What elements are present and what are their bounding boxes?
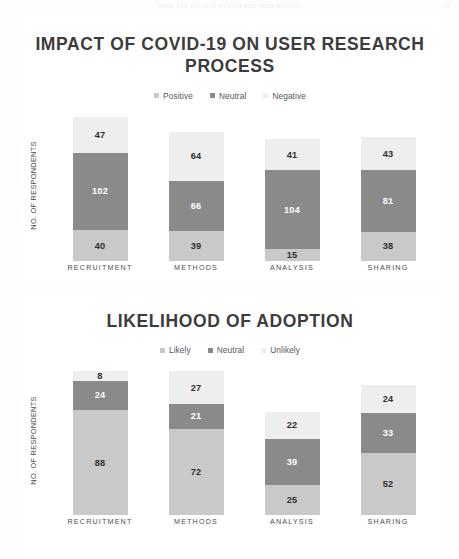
- bar-segment[interactable]: 22: [265, 412, 320, 438]
- bar-segment[interactable]: 66: [169, 181, 224, 231]
- bar-group-adoption: 82488272172223925243352: [52, 365, 436, 515]
- y-axis-label-impact: NO. OF RESPONDENTS: [26, 111, 40, 261]
- legend-label: Neutral: [217, 345, 244, 355]
- bar-segment[interactable]: 15: [265, 249, 320, 260]
- legend-item-neutral: Neutral: [210, 91, 246, 101]
- bar-segment[interactable]: 24: [73, 381, 128, 410]
- bar-segment[interactable]: 38: [361, 232, 416, 261]
- stacked-bar[interactable]: 82488: [73, 371, 128, 515]
- legend-label: Negative: [272, 91, 306, 101]
- x-axis-label: RECRUITMENT: [61, 263, 139, 272]
- bar-segment[interactable]: 102: [73, 153, 128, 231]
- bar-column: 4710240: [61, 111, 139, 261]
- x-axis-labels-impact: RECRUITMENTMETHODSANALYSISSHARING: [52, 263, 436, 272]
- bar-segment[interactable]: 81: [361, 170, 416, 232]
- bar-segment[interactable]: 33: [361, 413, 416, 453]
- legend-label: Unlikely: [270, 345, 300, 355]
- chart-plot-impact: NO. OF RESPONDENTS 471024064663941104154…: [18, 111, 442, 261]
- running-header: IMPACT OF COVID-19 ON USER RESEARCH PROC…: [0, 0, 459, 12]
- legend-swatch-icon: [160, 348, 165, 353]
- legend-item-neutral: Neutral: [208, 345, 244, 355]
- legend-item-unlikely: Unlikely: [261, 345, 300, 355]
- legend-swatch-icon: [210, 93, 215, 98]
- stacked-bar[interactable]: 223925: [265, 412, 320, 515]
- x-axis-labels-adoption: RECRUITMENTMETHODSANALYSISSHARING: [52, 517, 436, 526]
- bar-segment[interactable]: 72: [169, 429, 224, 515]
- stacked-bar[interactable]: 438138: [361, 137, 416, 260]
- x-axis-label: ANALYSIS: [253, 517, 331, 526]
- x-axis-label: METHODS: [157, 517, 235, 526]
- bar-column: 272172: [157, 365, 235, 515]
- legend-swatch-icon: [154, 93, 159, 98]
- x-axis-label: RECRUITMENT: [61, 517, 139, 526]
- bar-segment[interactable]: 21: [169, 404, 224, 429]
- bar-segment[interactable]: 88: [73, 410, 128, 516]
- x-axis-label: ANALYSIS: [253, 263, 331, 272]
- legend-label: Neutral: [219, 91, 246, 101]
- chart-plot-adoption: NO. OF RESPONDENTS 824882721722239252433…: [18, 365, 442, 515]
- bar-column: 438138: [349, 111, 427, 261]
- legend-item-likely: Likely: [160, 345, 191, 355]
- y-axis-label-adoption: NO. OF RESPONDENTS: [26, 365, 40, 515]
- chart-panel-adoption: LIKELIHOOD OF ADOPTION LikelyNeutralUnli…: [18, 296, 442, 559]
- x-axis-label: SHARING: [349, 517, 427, 526]
- bar-segment[interactable]: 24: [361, 385, 416, 414]
- bar-segment[interactable]: 64: [169, 132, 224, 181]
- bar-segment[interactable]: 104: [265, 170, 320, 249]
- bar-column: 4110415: [253, 111, 331, 261]
- bar-column: 646639: [157, 111, 235, 261]
- bar-segment[interactable]: 39: [265, 439, 320, 486]
- page-number: 10: [445, 3, 451, 9]
- bar-segment[interactable]: 41: [265, 139, 320, 170]
- legend-swatch-icon: [261, 348, 266, 353]
- bar-segment[interactable]: 43: [361, 137, 416, 170]
- stacked-bar[interactable]: 4110415: [265, 139, 320, 261]
- stacked-bar[interactable]: 646639: [169, 132, 224, 261]
- stacked-bar[interactable]: 272172: [169, 371, 224, 515]
- legend-label: Likely: [169, 345, 191, 355]
- document-page: IMPACT OF COVID-19 ON USER RESEARCH PROC…: [0, 0, 459, 559]
- stacked-bar[interactable]: 4710240: [73, 117, 128, 261]
- legend-label: Positive: [163, 91, 193, 101]
- bar-segment[interactable]: 27: [169, 371, 224, 403]
- bar-segment[interactable]: 47: [73, 117, 128, 153]
- legend-item-negative: Negative: [263, 91, 306, 101]
- bar-segment[interactable]: 8: [73, 371, 128, 381]
- legend-swatch-icon: [208, 348, 213, 353]
- chart-panel-impact: IMPACT OF COVID-19 ON USER RESEARCH PROC…: [18, 16, 442, 280]
- chart-legend-impact: PositiveNeutralNegative: [18, 91, 442, 101]
- running-header-text: IMPACT OF COVID-19 ON USER RESEARCH PROC…: [158, 3, 300, 9]
- bar-group-impact: 47102406466394110415438138: [52, 111, 436, 261]
- legend-swatch-icon: [263, 93, 268, 98]
- stacked-bar[interactable]: 243352: [361, 385, 416, 516]
- bar-segment[interactable]: 52: [361, 453, 416, 515]
- x-axis-label: SHARING: [349, 263, 427, 272]
- chart-title-adoption: LIKELIHOOD OF ADOPTION: [18, 296, 442, 332]
- legend-item-positive: Positive: [154, 91, 193, 101]
- x-axis-label: METHODS: [157, 263, 235, 272]
- bar-segment[interactable]: 25: [265, 485, 320, 515]
- bar-column: 82488: [61, 365, 139, 515]
- chart-legend-adoption: LikelyNeutralUnlikely: [18, 345, 442, 355]
- bar-segment[interactable]: 39: [169, 231, 224, 261]
- chart-title-impact: IMPACT OF COVID-19 ON USER RESEARCH PROC…: [18, 16, 442, 78]
- bar-column: 243352: [349, 365, 427, 515]
- bar-segment[interactable]: 40: [73, 230, 128, 260]
- bar-column: 223925: [253, 365, 331, 515]
